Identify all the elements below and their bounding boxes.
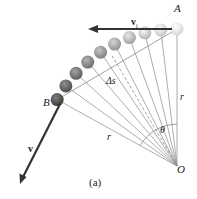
circular-motion-diagram: A B O r r θ Δs vi v (a)	[0, 0, 197, 199]
label-origin: O	[177, 164, 185, 175]
ball	[108, 38, 121, 51]
label-velocity-initial: vi	[131, 17, 138, 29]
radius-line	[88, 62, 177, 166]
label-delta-s: Δs	[106, 76, 116, 86]
dashed-bisector	[111, 54, 177, 166]
label-radius-b: r	[107, 132, 111, 142]
velocity-arrow	[20, 104, 61, 184]
ball	[94, 46, 107, 59]
label-point-a: A	[174, 3, 181, 14]
ball	[81, 56, 94, 69]
ball	[59, 79, 72, 92]
radius-line	[76, 73, 177, 166]
label-point-b: B	[43, 97, 50, 108]
ball-b	[51, 93, 64, 106]
label-theta: θ	[160, 125, 165, 135]
ball-a	[171, 23, 184, 36]
radius-line	[115, 44, 177, 166]
label-velocity: v	[28, 144, 33, 154]
ball	[123, 31, 136, 44]
figure-caption: (a)	[89, 177, 101, 188]
label-radius-vertical: r	[180, 92, 184, 102]
diagram-canvas	[0, 0, 197, 199]
radius-line	[129, 38, 177, 166]
ball	[70, 67, 83, 80]
velocity-initial-subscript: i	[136, 23, 138, 29]
